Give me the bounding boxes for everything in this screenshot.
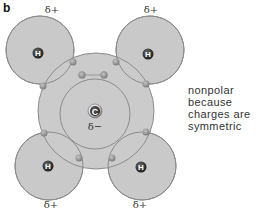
panel-label: b [3,1,10,15]
carbon-nucleus: C [88,104,102,118]
hydrogen-partial-charge: δ+ [144,4,158,15]
svg-text:H: H [145,50,151,59]
bond-electron [70,59,77,66]
bond-electron [143,81,150,88]
caption-line: nonpolar [188,84,256,96]
svg-text:H: H [138,163,144,172]
hydrogen-nucleus: H [33,48,44,59]
caption-line: charges are [188,108,256,120]
polarity-caption: nonpolar because charges are symmetric [188,84,256,132]
bond-electron [113,59,120,66]
inner-electron [79,72,86,79]
carbon-partial-charge: δ− [88,121,102,132]
hydrogen-nucleus: H [43,161,54,172]
caption-line: symmetric [188,120,256,132]
bond-electron [143,129,150,136]
hydrogen-partial-charge: δ+ [44,199,58,210]
hydrogen-nucleus: H [136,162,147,173]
hydrogen-partial-charge: δ+ [133,199,147,210]
hydrogen-partial-charge: δ+ [45,4,59,15]
bond-electron [76,155,83,162]
bond-electron [109,155,116,162]
svg-text:H: H [45,162,51,171]
svg-text:C: C [92,107,99,117]
bond-electron [40,83,47,90]
inner-electron [101,72,108,79]
svg-text:H: H [35,49,41,58]
hydrogen-nucleus: H [143,49,154,60]
bond-electron [41,130,48,137]
caption-line: because [188,96,256,108]
